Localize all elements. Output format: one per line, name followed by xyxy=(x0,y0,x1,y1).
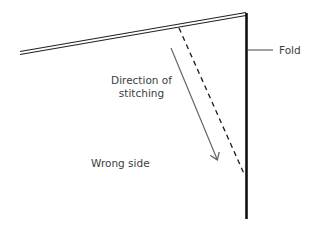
diagram-canvas: Fold Direction of stitching Wrong side xyxy=(0,0,316,232)
fabric-edge xyxy=(20,13,246,55)
seam-diagram: Fold Direction of stitching Wrong side xyxy=(0,0,316,232)
direction-arrow-icon xyxy=(171,48,217,159)
fold-label: Fold xyxy=(279,44,301,56)
direction-label-line1: Direction of xyxy=(111,74,172,86)
direction-label-line2: stitching xyxy=(119,87,164,99)
stitch-line xyxy=(179,28,245,176)
wrong-side-label: Wrong side xyxy=(91,157,150,169)
